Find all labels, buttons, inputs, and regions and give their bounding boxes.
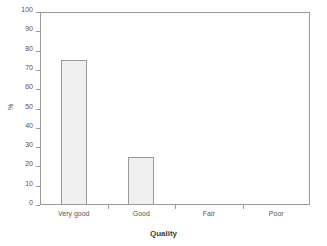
x-axis-tick-mark — [108, 205, 109, 209]
x-axis-tick-label: Good — [133, 210, 150, 218]
y-axis-tick-label: 100 — [21, 6, 33, 13]
y-axis-title: % — [7, 104, 14, 110]
bar — [128, 157, 154, 205]
y-axis-tick-label: 30 — [25, 141, 33, 148]
x-axis-title: Quality — [0, 229, 327, 238]
y-axis-tick-label: 90 — [25, 25, 33, 32]
bar — [61, 60, 87, 205]
x-axis-tick-label: Poor — [269, 210, 284, 218]
y-axis-tick-label: 0 — [29, 199, 33, 206]
bars-layer — [40, 12, 310, 205]
x-axis-tick-label: Fair — [203, 210, 215, 218]
x-axis-tick-labels: Very goodGoodFairPoor — [40, 210, 310, 222]
x-axis-tick-label: Very good — [58, 210, 90, 218]
y-axis-tick-label: 10 — [25, 180, 33, 187]
y-axis-tick-label: 80 — [25, 45, 33, 52]
y-axis-tick-label: 60 — [25, 83, 33, 90]
y-axis-tick-label: 50 — [25, 103, 33, 110]
x-axis-tick-mark — [175, 205, 176, 209]
y-axis: 0102030405060708090100 — [0, 12, 40, 205]
y-axis-tick-label: 70 — [25, 64, 33, 71]
x-axis-tick-mark — [243, 205, 244, 209]
y-axis-tick-label: 20 — [25, 160, 33, 167]
y-axis-tick-label: 40 — [25, 122, 33, 129]
bar-chart: 0102030405060708090100 % Very goodGoodFa… — [0, 0, 327, 246]
